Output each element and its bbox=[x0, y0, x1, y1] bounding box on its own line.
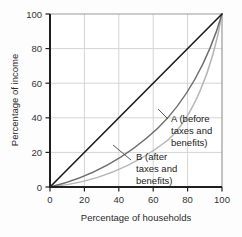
label-b-line1: B (after bbox=[136, 151, 167, 162]
label-b-line2: taxes and bbox=[136, 163, 177, 174]
label-a-line3: benefits) bbox=[171, 137, 207, 148]
y-tick-label-100: 100 bbox=[26, 9, 42, 20]
label-a-line2: taxes and bbox=[171, 125, 212, 136]
x-tick-label-20: 20 bbox=[79, 194, 90, 205]
x-tick-label-100: 100 bbox=[214, 194, 230, 205]
x-tick-label-40: 40 bbox=[114, 194, 125, 205]
label-b-line3: benefits) bbox=[136, 175, 172, 186]
x-tick-label-80: 80 bbox=[182, 194, 193, 205]
y-tick-label-60: 60 bbox=[31, 78, 42, 89]
chart-canvas: 0 20 40 60 80 100 0 20 40 60 80 100 Perc… bbox=[0, 0, 242, 237]
label-a-line1: A (before bbox=[171, 113, 210, 124]
y-tick-label-20: 20 bbox=[31, 147, 42, 158]
label-a: A (before taxes and benefits) bbox=[171, 113, 212, 148]
y-tick-label-0: 0 bbox=[37, 182, 42, 193]
y-tick-label-40: 40 bbox=[31, 112, 42, 123]
y-tick-label-80: 80 bbox=[31, 43, 42, 54]
x-axis-title: Percentage of households bbox=[81, 212, 192, 223]
x-tick-label-60: 60 bbox=[148, 194, 159, 205]
y-axis-title: Percentage of income bbox=[9, 54, 20, 146]
x-tick-label-0: 0 bbox=[47, 194, 52, 205]
lorenz-curve-chart: 0 20 40 60 80 100 0 20 40 60 80 100 Perc… bbox=[0, 0, 242, 237]
